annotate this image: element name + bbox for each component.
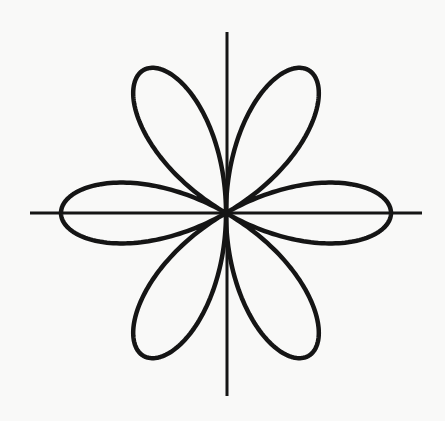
polar-rose-figure [0,0,445,421]
